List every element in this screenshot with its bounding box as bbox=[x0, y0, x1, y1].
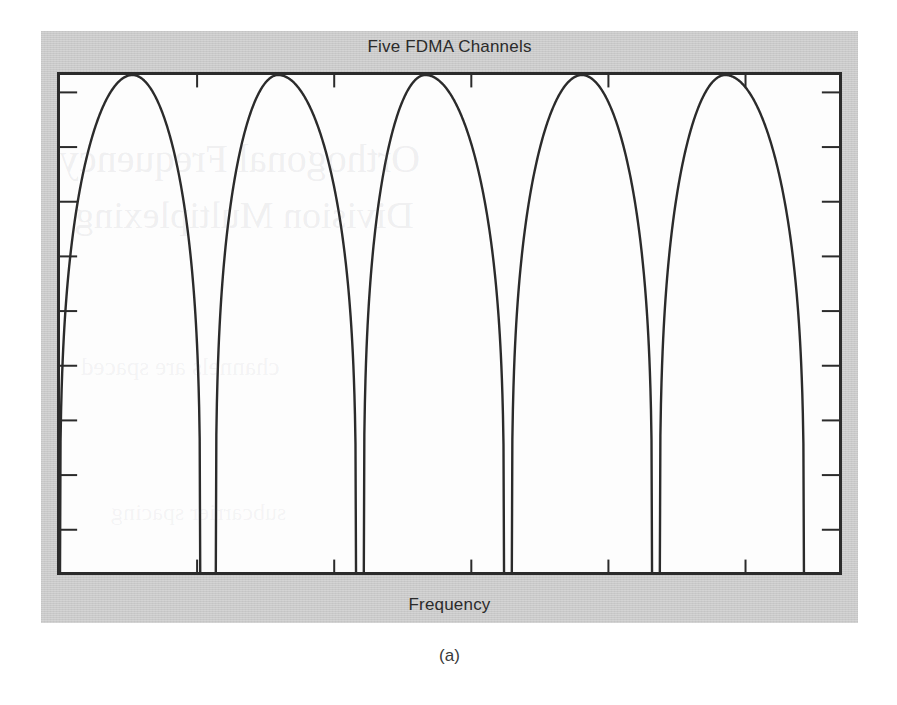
channel-curve-1 bbox=[60, 75, 200, 572]
figure-caption: (a) bbox=[41, 646, 858, 666]
channel-curve-4 bbox=[512, 75, 652, 572]
x-axis-label: Frequency bbox=[41, 595, 858, 615]
chart-title: Five FDMA Channels bbox=[41, 37, 858, 57]
channel-curve-5 bbox=[660, 75, 804, 572]
channel-curve-group bbox=[60, 75, 804, 572]
axis-tick-group bbox=[60, 75, 839, 572]
spectrum-plot bbox=[60, 75, 839, 572]
channel-curve-2 bbox=[216, 75, 356, 572]
channel-curve-3 bbox=[364, 75, 504, 572]
plot-area bbox=[57, 72, 842, 575]
figure-panel: Five FDMA Channels Orthogonal Frequency … bbox=[41, 31, 858, 623]
